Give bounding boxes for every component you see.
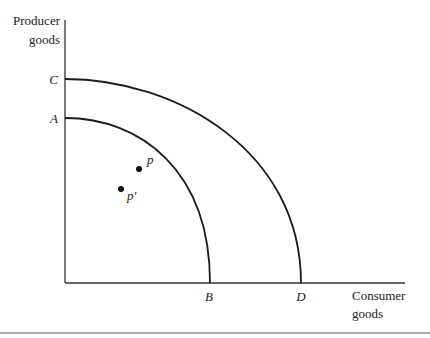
x-axis-label-line1: Consumer (352, 288, 406, 303)
frontier-ab (65, 118, 210, 283)
label-a: A (49, 111, 58, 126)
label-d: D (295, 289, 306, 304)
point-p-prime (118, 186, 124, 192)
y-axis-label-line1: Producer (13, 13, 61, 28)
label-b: B (205, 289, 213, 304)
label-p: p (146, 152, 154, 167)
ppf-chart: Producer goods C A B D p p' Consumer goo… (0, 0, 430, 338)
label-c: C (49, 72, 58, 87)
y-axis-label-line2: goods (29, 32, 60, 47)
x-axis-label-line2: goods (352, 306, 383, 321)
label-p-prime: p' (126, 188, 137, 203)
point-p (136, 166, 142, 172)
